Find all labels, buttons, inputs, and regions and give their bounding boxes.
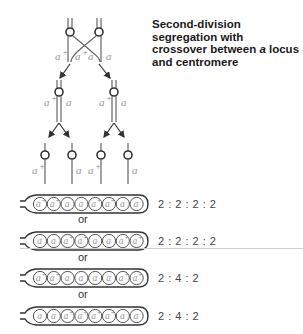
svg-text:a: a bbox=[44, 96, 50, 108]
ascus: a+a+aaa+a+aa bbox=[20, 195, 148, 213]
svg-text:+: + bbox=[97, 309, 102, 317]
svg-text:a: a bbox=[88, 164, 94, 176]
ascus-ratio: 2 : 4 : 2 bbox=[158, 310, 199, 322]
svg-text:a: a bbox=[106, 236, 111, 246]
ascus: a+a+aaaaa+a+ bbox=[20, 269, 148, 287]
ascus-ratio: 2 : 4 : 2 bbox=[158, 272, 199, 284]
svg-text:a: a bbox=[134, 199, 139, 209]
svg-text:+: + bbox=[55, 271, 60, 279]
or-separator: or bbox=[78, 213, 88, 225]
svg-text:+: + bbox=[83, 234, 88, 242]
svg-text:+: + bbox=[106, 93, 112, 103]
chromatids-bottom bbox=[41, 143, 132, 184]
ascus: aaa+a+a+a+aa bbox=[20, 307, 148, 325]
svg-text:a: a bbox=[37, 311, 42, 321]
svg-text:a: a bbox=[50, 199, 55, 209]
svg-text:a: a bbox=[91, 311, 96, 321]
svg-text:+: + bbox=[95, 161, 101, 171]
ascus-ratio: 2 : 2 : 2 : 2 bbox=[158, 198, 216, 210]
arrow-icon bbox=[60, 64, 70, 78]
or-separator: or bbox=[78, 251, 88, 263]
svg-text:+: + bbox=[51, 93, 57, 103]
svg-text:a: a bbox=[91, 199, 96, 209]
svg-text:a: a bbox=[105, 199, 110, 209]
svg-text:a: a bbox=[120, 199, 125, 209]
svg-text:+: + bbox=[124, 234, 129, 242]
svg-text:a: a bbox=[133, 236, 138, 246]
svg-text:a: a bbox=[65, 273, 70, 283]
svg-text:+: + bbox=[138, 271, 143, 279]
centromere-icon bbox=[95, 28, 103, 36]
svg-text:a: a bbox=[77, 311, 82, 321]
svg-text:a: a bbox=[64, 311, 69, 321]
svg-text:+: + bbox=[39, 161, 45, 171]
svg-text:a: a bbox=[32, 164, 38, 176]
svg-text:a: a bbox=[121, 96, 127, 108]
label-a-plus: a bbox=[55, 50, 61, 62]
svg-text:a: a bbox=[79, 273, 84, 283]
svg-text:+: + bbox=[55, 197, 60, 205]
svg-text:+: + bbox=[42, 197, 47, 205]
svg-text:+: + bbox=[111, 309, 116, 317]
svg-text:a: a bbox=[119, 236, 124, 246]
svg-text:+: + bbox=[42, 271, 47, 279]
svg-text:a: a bbox=[66, 96, 72, 108]
svg-text:a: a bbox=[36, 199, 41, 209]
svg-text:a: a bbox=[134, 311, 139, 321]
svg-text:a: a bbox=[37, 236, 42, 246]
svg-text:a: a bbox=[105, 311, 110, 321]
svg-text:a: a bbox=[106, 273, 111, 283]
svg-text:a: a bbox=[133, 273, 138, 283]
svg-text:a: a bbox=[79, 199, 84, 209]
svg-text:a: a bbox=[51, 236, 56, 246]
divider-line bbox=[20, 248, 303, 249]
svg-text:a: a bbox=[132, 164, 138, 176]
svg-text:+: + bbox=[138, 234, 143, 242]
svg-text:a: a bbox=[76, 164, 82, 176]
svg-text:a: a bbox=[119, 273, 124, 283]
svg-text:+: + bbox=[97, 197, 102, 205]
svg-text:+: + bbox=[111, 197, 116, 205]
svg-text:a: a bbox=[77, 236, 82, 246]
svg-text:+: + bbox=[83, 309, 88, 317]
svg-text:a: a bbox=[36, 273, 41, 283]
svg-text:a: a bbox=[64, 236, 69, 246]
svg-text:a: a bbox=[120, 311, 125, 321]
svg-text:a: a bbox=[50, 273, 55, 283]
svg-text:a: a bbox=[99, 96, 105, 108]
label-a: a bbox=[88, 50, 94, 62]
ascus-ratio: 2 : 2 : 2 : 2 bbox=[158, 235, 216, 247]
or-separator: or bbox=[78, 288, 88, 300]
svg-text:a: a bbox=[65, 199, 70, 209]
label-a-plus: a bbox=[75, 50, 81, 62]
centromere-icon bbox=[66, 28, 74, 36]
svg-text:a: a bbox=[92, 236, 97, 246]
label-a: a bbox=[106, 50, 112, 62]
svg-text:+: + bbox=[62, 47, 68, 57]
svg-text:a: a bbox=[51, 311, 56, 321]
svg-text:a: a bbox=[92, 273, 97, 283]
svg-text:+: + bbox=[69, 309, 74, 317]
meiosis-diagram: a+ a+ a a a+ a a+ a a+ a a+ a a+a+aaa+a+… bbox=[0, 0, 303, 334]
arrow-icon bbox=[99, 64, 110, 78]
svg-text:+: + bbox=[124, 271, 129, 279]
svg-text:+: + bbox=[69, 234, 74, 242]
